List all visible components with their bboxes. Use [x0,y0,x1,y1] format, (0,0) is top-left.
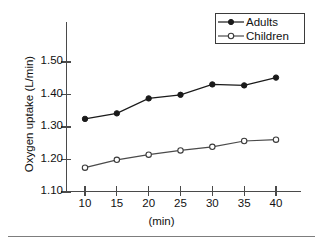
chart-legend: Adults Children [215,13,305,44]
series-line [85,140,276,168]
chart-figure: Oxygen uptake (L/min) 1.501.401.301.201.… [0,0,323,245]
legend-marker-open-circle-icon [216,29,246,43]
data-point-open-circle-icon [178,148,183,153]
bottom-divider [8,236,315,237]
legend-item-children: Children [216,29,306,43]
data-point-filled-circle-icon [82,116,87,121]
series-children [82,137,278,170]
series-line [85,78,276,119]
data-point-open-circle-icon [146,152,151,157]
legend-item-adults: Adults [216,15,306,29]
legend-label-children: Children [246,29,289,43]
x-axis-title: (min) [0,215,323,227]
data-point-filled-circle-icon [178,92,183,97]
data-point-filled-circle-icon [114,111,119,116]
series-adults [82,75,278,122]
data-point-open-circle-icon [114,157,119,162]
data-point-filled-circle-icon [146,96,151,101]
data-point-open-circle-icon [210,144,215,149]
data-point-open-circle-icon [273,137,278,142]
data-point-filled-circle-icon [241,83,246,88]
data-point-open-circle-icon [241,138,246,143]
legend-marker-filled-circle-icon [216,15,246,29]
data-point-filled-circle-icon [210,82,215,87]
data-point-filled-circle-icon [273,75,278,80]
legend-label-adults: Adults [246,15,278,29]
data-point-open-circle-icon [82,165,87,170]
